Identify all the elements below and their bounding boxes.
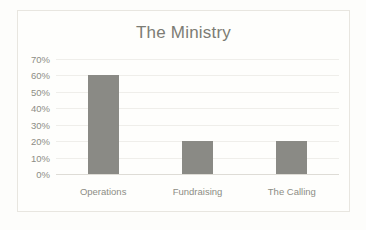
plot-area: 0%10%20%30%40%50%60%70% OperationsFundra… — [56, 59, 339, 174]
x-axis-tick-label: Fundraising — [173, 186, 223, 197]
bar — [182, 141, 213, 174]
y-axis-tick-label: 50% — [31, 86, 50, 97]
bar — [276, 141, 307, 174]
x-axis-tick-label: Operations — [80, 186, 126, 197]
y-axis-tick-label: 40% — [31, 103, 50, 114]
chart-title: The Ministry — [18, 23, 349, 43]
y-axis-tick-label: 10% — [31, 152, 50, 163]
y-axis-tick-label: 60% — [31, 70, 50, 81]
y-axis-tick-label: 30% — [31, 119, 50, 130]
chart-container: The Ministry 0%10%20%30%40%50%60%70% Ope… — [17, 10, 350, 212]
x-axis-tick-label: The Calling — [268, 186, 316, 197]
bar — [88, 75, 119, 174]
y-axis-tick-label: 20% — [31, 136, 50, 147]
bar-series — [56, 59, 339, 174]
y-axis-tick-label: 0% — [36, 169, 50, 180]
y-axis-tick-label: 70% — [31, 54, 50, 65]
axis-baseline — [56, 174, 339, 175]
